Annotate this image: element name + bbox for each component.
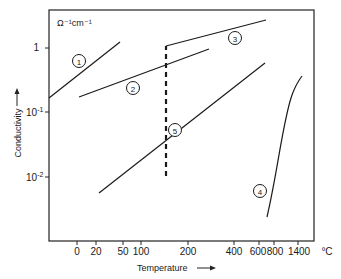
x-tick-label: 800 xyxy=(267,246,284,257)
x-axis-label: Temperature xyxy=(137,263,188,273)
svg-text:1: 1 xyxy=(77,58,82,67)
x-tick-label: 50 xyxy=(117,246,129,257)
y-tick-0.01: 10-2 xyxy=(26,171,43,183)
plot-frame xyxy=(49,10,314,241)
curve-5 xyxy=(99,63,265,193)
x-axis: 0 20 50 100 200 400 600 800 1400 °C xyxy=(74,241,332,257)
curve-label-5: 5 xyxy=(169,124,182,137)
x-tick-label: 20 xyxy=(90,246,102,257)
x-tick-label: 400 xyxy=(226,246,243,257)
curve-4 xyxy=(267,76,302,217)
y-tick-1: 1 xyxy=(33,42,39,53)
curve-2 xyxy=(79,49,209,97)
svg-text:3: 3 xyxy=(233,35,238,44)
curve-label-2: 2 xyxy=(127,82,140,95)
svg-text:5: 5 xyxy=(173,127,178,136)
curve-label-3: 3 xyxy=(229,32,242,45)
curve-label-4: 4 xyxy=(254,185,267,198)
y-unit-label: Ω⁻¹cm⁻¹ xyxy=(57,18,92,28)
y-axis-title: Conductivity xyxy=(13,108,23,158)
x-arrow-icon xyxy=(197,266,216,271)
curve-3 xyxy=(166,20,266,46)
x-tick-label: 100 xyxy=(133,246,150,257)
y-arrow-icon xyxy=(15,88,20,106)
x-tick-label: 600 xyxy=(250,246,267,257)
y-axis-label: Conductivity xyxy=(13,108,23,158)
x-tick-label: 0 xyxy=(74,246,80,257)
x-tick-label: 200 xyxy=(180,246,197,257)
conductivity-chart: Ω⁻¹cm⁻¹ 1 10-1 10-2 Conductivity 0 20 50… xyxy=(0,0,341,279)
y-axis: 1 10-1 10-2 xyxy=(26,42,49,183)
y-tick-0.1: 10-1 xyxy=(26,106,43,118)
curve-1 xyxy=(49,42,120,98)
svg-text:4: 4 xyxy=(258,188,263,197)
x-unit-label: °C xyxy=(321,246,332,257)
curve-label-1: 1 xyxy=(73,55,86,68)
svg-text:2: 2 xyxy=(131,85,136,94)
x-tick-label: 1400 xyxy=(288,246,311,257)
